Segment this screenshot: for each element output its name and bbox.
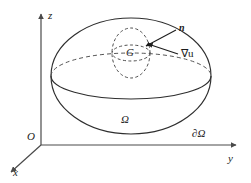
z-axis-label: z xyxy=(48,10,52,21)
gradient-label: ∇u xyxy=(181,48,194,59)
normal-vector-arrow xyxy=(146,30,176,46)
domain-outline xyxy=(51,18,211,134)
figure-container: z y x O Ω ∂Ω G n ∇u xyxy=(0,0,251,183)
equator-front-solid xyxy=(51,76,211,99)
subdomain-label: G xyxy=(126,47,134,58)
domain-label: Ω xyxy=(121,114,129,125)
normal-vector-label: n xyxy=(179,23,185,33)
y-axis-label: y xyxy=(228,153,233,164)
diagram-canvas xyxy=(0,0,251,183)
gradient-vector-arrow xyxy=(148,44,178,54)
x-axis-label: x xyxy=(13,167,18,178)
boundary-label: ∂Ω xyxy=(192,128,205,139)
origin-label: O xyxy=(27,131,35,142)
